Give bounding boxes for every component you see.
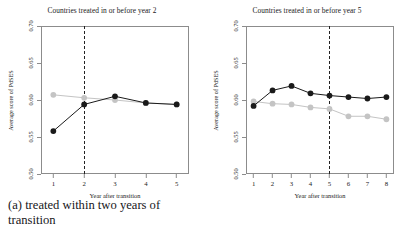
y-tick-label: 0.60 bbox=[232, 94, 239, 105]
panel-b-y-axis-label: Average score of PdSES bbox=[209, 26, 221, 174]
panel-a-point-control-2 bbox=[81, 95, 87, 101]
panel-a-y-tick: 0.60 bbox=[25, 97, 41, 104]
y-tick-label: 0.60 bbox=[27, 94, 34, 105]
panel-b-series-layer bbox=[246, 26, 394, 174]
panel-b-point-treated-8 bbox=[384, 94, 390, 100]
y-tick-label: 0.65 bbox=[232, 57, 239, 68]
panel-b-point-treated-6 bbox=[346, 94, 352, 100]
panel-a-x-tick-3: 3 bbox=[113, 174, 116, 187]
panel-b-point-treated-3 bbox=[289, 83, 295, 89]
y-tick-label: 0.70 bbox=[27, 20, 34, 31]
panel-a-point-treated-3 bbox=[112, 93, 118, 99]
panel-b-point-control-5 bbox=[327, 106, 333, 112]
panel-b-x-axis-label: Year after transition bbox=[246, 192, 394, 199]
panel-b-point-control-4 bbox=[308, 105, 314, 111]
panel-b-point-treated-4 bbox=[308, 90, 314, 96]
y-tick-label: 0.70 bbox=[232, 20, 239, 31]
y-tick-label: 0.55 bbox=[27, 131, 34, 142]
panel-b-y-tick: 0.65 bbox=[230, 60, 246, 67]
panel-b-x-tick-8: 8 bbox=[385, 174, 388, 187]
panel-a-y-tick: 0.65 bbox=[25, 60, 41, 67]
panel-b-plot-area: 0.500.550.600.650.7012345678 bbox=[246, 26, 394, 174]
panel-a-y-tick: 0.50 bbox=[25, 171, 41, 178]
panel-b: Countries treated in or before year 5 Av… bbox=[205, 0, 409, 237]
panel-b-title: Countries treated in or before year 5 bbox=[205, 6, 409, 15]
panel-a-x-tick-2: 2 bbox=[82, 174, 85, 187]
panel-a-x-tick-5: 5 bbox=[175, 174, 178, 187]
panel-b-point-control-7 bbox=[365, 113, 371, 119]
panel-a-plot-area: 0.500.550.600.650.7012345 bbox=[41, 26, 189, 174]
panel-b-x-tick-4: 4 bbox=[309, 174, 312, 187]
panel-a: Countries treated in or before year 2 Av… bbox=[0, 0, 204, 237]
panel-b-point-control-8 bbox=[384, 116, 390, 122]
panel-b-x-tick-1: 1 bbox=[252, 174, 255, 187]
panel-b-point-control-3 bbox=[289, 102, 295, 108]
panel-b-x-tick-6: 6 bbox=[347, 174, 350, 187]
panel-a-x-tick-4: 4 bbox=[144, 174, 147, 187]
panel-b-point-treated-5 bbox=[327, 93, 333, 99]
figure-two-panel-line-charts: Countries treated in or before year 2 Av… bbox=[0, 0, 409, 237]
panel-a-point-control-1 bbox=[50, 92, 56, 98]
panel-b-point-control-2 bbox=[270, 101, 276, 107]
panel-b-x-tick-2: 2 bbox=[271, 174, 274, 187]
panel-b-x-tick-5: 5 bbox=[328, 174, 331, 187]
panel-b-y-tick: 0.60 bbox=[230, 97, 246, 104]
panel-b-point-control-6 bbox=[346, 113, 352, 119]
y-tick-label: 0.65 bbox=[27, 57, 34, 68]
y-tick-label: 0.50 bbox=[27, 168, 34, 179]
panel-b-point-treated-2 bbox=[270, 87, 276, 93]
panel-b-point-treated-1 bbox=[251, 103, 257, 109]
panel-a-y-axis-label: Average score of PdSES bbox=[4, 26, 16, 174]
panel-a-point-treated-1 bbox=[50, 128, 56, 134]
panel-a-series-layer bbox=[41, 26, 189, 174]
panel-b-y-tick: 0.55 bbox=[230, 134, 246, 141]
panel-b-x-tick-3: 3 bbox=[290, 174, 293, 187]
panel-b-x-tick-7: 7 bbox=[366, 174, 369, 187]
panel-b-y-tick: 0.50 bbox=[230, 171, 246, 178]
panel-a-caption: (a) treated within two years of transiti… bbox=[8, 198, 198, 228]
panel-b-point-treated-7 bbox=[365, 96, 371, 102]
y-tick-label: 0.55 bbox=[232, 131, 239, 142]
panel-a-title: Countries treated in or before year 2 bbox=[0, 6, 204, 15]
panel-a-point-treated-2 bbox=[81, 102, 87, 108]
panel-b-y-tick: 0.70 bbox=[230, 23, 246, 30]
panel-a-y-tick: 0.55 bbox=[25, 134, 41, 141]
panel-a-point-treated-4 bbox=[143, 100, 149, 106]
panel-a-point-treated-5 bbox=[174, 102, 180, 108]
panel-a-x-tick-1: 1 bbox=[52, 174, 55, 187]
y-tick-label: 0.50 bbox=[232, 168, 239, 179]
panel-a-y-tick: 0.70 bbox=[25, 23, 41, 30]
